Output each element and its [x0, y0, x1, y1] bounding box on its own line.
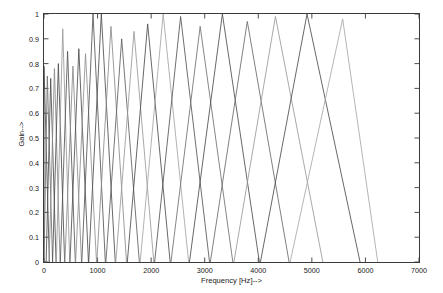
filter-triangle [171, 26, 233, 262]
x-tick-label: 5000 [304, 266, 320, 275]
filter-triangle [46, 78, 56, 262]
filter-triangle [76, 54, 97, 262]
x-tick-label: 3000 [197, 266, 213, 275]
filter-triangle [210, 21, 289, 262]
filter-triangle [65, 66, 82, 262]
filter-triangle [116, 31, 154, 262]
axis-ticks [44, 14, 419, 262]
filter-triangle [127, 24, 170, 262]
x-tick-label: 2000 [143, 266, 159, 275]
filter-triangle [189, 14, 259, 262]
filter-curves-canvas [44, 14, 419, 262]
filter-triangles [44, 14, 378, 262]
filter-triangle [234, 16, 323, 262]
filter-triangle [89, 14, 116, 262]
x-tick-label: 1000 [90, 266, 106, 275]
filter-triangle [106, 39, 139, 262]
filter-triangle [97, 26, 127, 262]
filter-triangle [60, 51, 75, 262]
x-tick-label: 0 [42, 266, 46, 275]
x-axis-title: Frequency [Hz]--> [43, 276, 420, 285]
x-tick-label: 7000 [411, 266, 427, 275]
filter-triangle [49, 69, 60, 262]
plot-area [43, 13, 420, 263]
mel-filterbank-figure: Gain--> 00.10.20.30.40.50.60.70.80.91 01… [0, 0, 443, 293]
x-tick-label: 6000 [357, 266, 373, 275]
filter-triangle [140, 14, 188, 262]
filter-triangle [260, 14, 360, 262]
x-tick-label: 4000 [250, 266, 266, 275]
filter-triangle [53, 64, 65, 262]
filter-triangle [155, 16, 210, 262]
filterbank-svg [44, 14, 419, 262]
filter-triangle [82, 14, 106, 262]
